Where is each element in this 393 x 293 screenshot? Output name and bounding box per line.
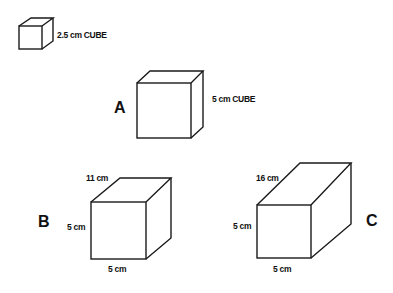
prism-c-height: 5 cm [233,221,252,231]
cube-a-label: 5 cm CUBE [212,94,256,104]
reference-cube [19,18,53,49]
prism-c-width: 5 cm [273,264,292,274]
prism-b-depth: 11 cm [86,173,109,183]
prism-b-width: 5 cm [108,264,127,274]
prisms-diagram: 2.5 cm CUBE A 5 cm CUBE B 11 cm 5 cm 5 c… [0,0,393,293]
reference-cube-label: 2.5 cm CUBE [57,30,107,40]
prism-c-depth: 16 cm [256,173,279,183]
prism-b [91,178,171,259]
shape-c-letter: C [366,212,378,229]
cube-a [137,71,203,138]
shape-b-letter: B [38,213,50,230]
shape-a-letter: A [114,99,126,116]
prism-b-height: 5 cm [67,222,86,232]
